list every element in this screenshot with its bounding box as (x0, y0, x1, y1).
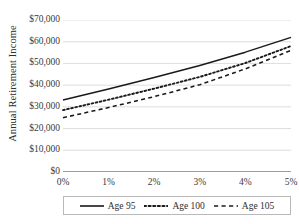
y-axis-tick-label: $10,000 (2, 145, 60, 155)
x-axis-tick-label: 0% (48, 176, 78, 188)
series-lines (63, 20, 291, 172)
series-line (63, 46, 291, 110)
legend-item[interactable]: Age 105 (214, 201, 274, 211)
legend-label: Age 105 (242, 201, 274, 211)
x-axis-tick-label: 5% (276, 176, 299, 188)
y-axis-tick-label: $60,000 (2, 37, 60, 47)
legend-item[interactable]: Age 100 (144, 201, 204, 211)
y-axis-tick-label: $50,000 (2, 58, 60, 68)
y-axis-tick-label: $20,000 (2, 124, 60, 134)
series-line (63, 50, 291, 117)
x-axis-tick-label: 3% (185, 176, 215, 188)
chart-legend: Age 95Age 100Age 105 (63, 196, 291, 215)
x-axis-tick-label: 1% (94, 176, 124, 188)
legend-key-icon (144, 202, 168, 210)
line-chart: Annual Retirement Income $0$10,000$20,00… (0, 0, 299, 224)
plot-area (63, 20, 291, 172)
x-axis-tick-labels: 0%1%2%3%4%5% (63, 176, 291, 190)
x-axis-tick-label: 2% (139, 176, 169, 188)
x-axis-tick-label: 4% (230, 176, 260, 188)
legend-label: Age 100 (172, 201, 204, 211)
legend-item[interactable]: Age 95 (80, 201, 136, 211)
y-axis-tick-label: $30,000 (2, 102, 60, 112)
y-axis-tick-label: $40,000 (2, 80, 60, 90)
legend-key-icon (214, 202, 238, 210)
y-axis-tick-label: $70,000 (2, 15, 60, 25)
y-axis-tick-labels: $0$10,000$20,000$30,000$40,000$50,000$60… (0, 0, 60, 224)
legend-label: Age 95 (108, 201, 136, 211)
legend-key-icon (80, 202, 104, 210)
